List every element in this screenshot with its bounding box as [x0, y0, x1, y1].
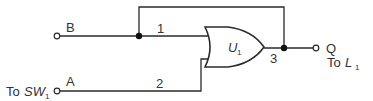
input-a-label: A [66, 74, 75, 89]
pin-1-label: 1 [157, 21, 164, 36]
terminal-q [313, 45, 319, 51]
junction-dot-output [281, 45, 287, 51]
pin-3-label: 3 [270, 51, 277, 66]
gate-sub-label: 1 [237, 48, 242, 57]
dest-prefix-label: To [327, 55, 341, 70]
pin-2-label: 2 [156, 76, 163, 91]
or-gate-latch-diagram: B 1 A 2 To SW 1 U 1 3 Q To L 1 [0, 0, 373, 101]
source-name-label: SW [24, 84, 47, 99]
junction-dot-input [136, 33, 142, 39]
source-sub-label: 1 [45, 92, 50, 101]
input-b-label: B [66, 20, 75, 35]
dest-name-label: L [345, 55, 352, 70]
source-prefix-label: To [6, 84, 20, 99]
input-a-wire [60, 59, 218, 91]
output-q-label: Q [326, 41, 336, 56]
dest-sub-label: 1 [355, 63, 360, 72]
terminal-b [54, 33, 60, 39]
terminal-a [54, 88, 60, 94]
